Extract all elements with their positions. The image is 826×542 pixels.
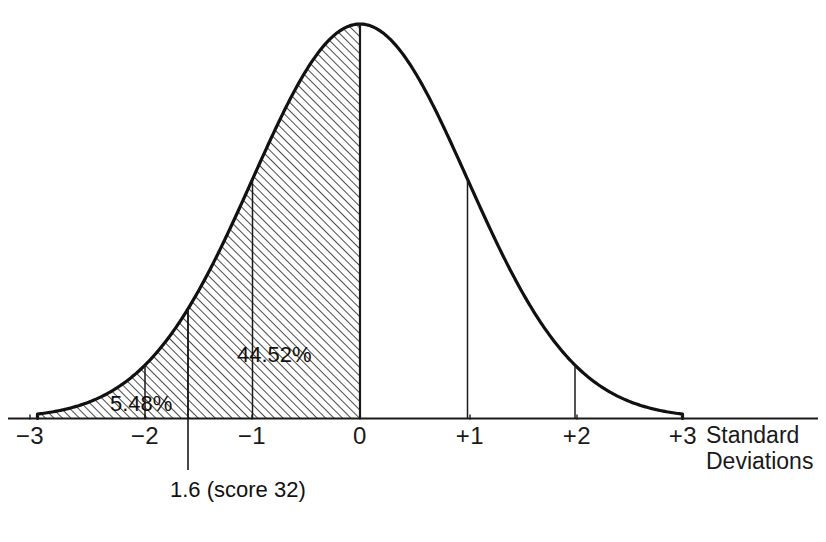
tick-label-plus-1: +1 <box>456 424 484 448</box>
tick-label-minus-2: −2 <box>131 424 159 448</box>
area-label-main: 44.52% <box>237 344 312 366</box>
distribution-curve-svg <box>0 0 826 542</box>
tick-label-plus-3: +3 <box>669 424 697 448</box>
shaded-area-group <box>38 24 361 419</box>
tick-label-zero: 0 <box>353 424 367 448</box>
x-axis-title-line-1: Standard <box>706 423 799 449</box>
tick-label-minus-3: −3 <box>16 424 44 448</box>
tick-label-plus-2: +2 <box>563 424 591 448</box>
shaded-area-hatch <box>38 24 361 419</box>
normal-distribution-figure: −3 −2 −1 0 +1 +2 +3 Standard Deviations … <box>0 0 826 542</box>
score-callout-label: 1.6 (score 32) <box>170 479 306 501</box>
area-label-tail: 5.48% <box>110 393 172 415</box>
x-axis-title-line-2: Deviations <box>706 449 813 475</box>
tick-label-minus-1: −1 <box>238 424 266 448</box>
